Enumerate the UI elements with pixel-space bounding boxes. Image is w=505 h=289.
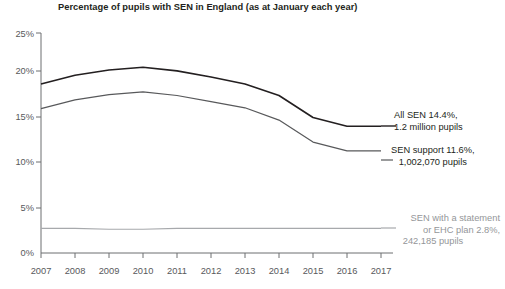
chart-container: Percentage of pupils with SEN in England… — [0, 0, 505, 289]
series-line-sen-statement — [41, 228, 381, 229]
chart-plot-area — [0, 0, 505, 289]
